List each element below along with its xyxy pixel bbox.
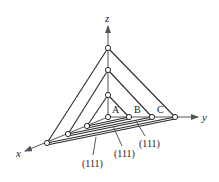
vertex-x2 — [65, 131, 70, 136]
vertex-origin — [105, 114, 110, 119]
vertex-z1 — [105, 45, 110, 50]
vertex-x1 — [84, 123, 89, 128]
vertex-y2 — [149, 114, 154, 119]
vertex-y1 — [126, 114, 131, 119]
label-b: B — [134, 104, 141, 115]
vertex-x3 — [44, 140, 49, 145]
z-axis-label: z — [104, 12, 110, 24]
plane-label-2: (111) — [114, 148, 135, 160]
plane-label-3: (111) — [139, 138, 160, 150]
x-axis-label: x — [15, 147, 21, 159]
vertex-z3 — [105, 92, 110, 97]
vertex-y3 — [172, 114, 177, 119]
leader-line-1 — [93, 137, 96, 155]
crystal-planes-diagram: z y x A B C (111) (111) (111) — [0, 0, 219, 182]
vertex-z2 — [105, 67, 110, 72]
y-axis-label: y — [201, 111, 207, 123]
plane-label-1: (111) — [82, 158, 103, 170]
label-c: C — [157, 104, 164, 115]
label-a: A — [112, 104, 120, 115]
